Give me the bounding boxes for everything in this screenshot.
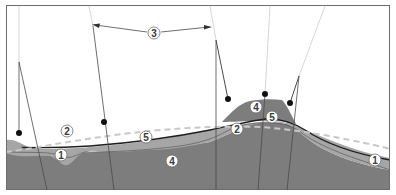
label-3: 3 (148, 27, 160, 39)
label-5-left: 5 (140, 131, 152, 143)
label-1-right: 1 (369, 154, 381, 166)
label-2-right: 2 (231, 123, 243, 135)
marker-dot-e (287, 100, 293, 106)
marker-dot-a (16, 130, 22, 136)
svg-text:5: 5 (143, 132, 149, 143)
marker-dot-b (101, 119, 107, 125)
marker-dot-d (262, 91, 268, 97)
label-4-bottom: 4 (166, 155, 178, 167)
svg-text:1: 1 (58, 150, 64, 161)
label-2-left: 2 (61, 125, 73, 137)
label-4-bump: 4 (250, 101, 262, 113)
svg-text:5: 5 (269, 112, 275, 123)
label-1-left: 1 (55, 149, 67, 161)
label-5-right: 5 (266, 111, 278, 123)
svg-text:4: 4 (169, 156, 175, 167)
svg-text:3: 3 (151, 28, 157, 39)
svg-text:4: 4 (253, 102, 259, 113)
svg-text:1: 1 (372, 155, 378, 166)
marker-dot-c (225, 96, 231, 102)
cross-section-diagram: 3 2 1 5 4 4 5 2 (0, 0, 396, 195)
svg-text:2: 2 (234, 124, 240, 135)
svg-text:2: 2 (64, 126, 70, 137)
